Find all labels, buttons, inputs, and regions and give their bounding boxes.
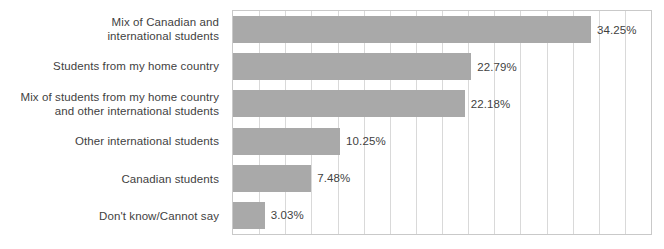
bar [233, 53, 471, 80]
bar [233, 202, 265, 229]
bar-row: 34.25% [233, 11, 651, 48]
bar-value-label: 34.25% [597, 24, 637, 36]
bar-value-label: 22.79% [477, 61, 517, 73]
category-label: Students from my home country [0, 48, 226, 86]
category-axis: Mix of Canadian and international studen… [0, 10, 226, 235]
horizontal-bar-chart: Mix of Canadian and international studen… [0, 0, 664, 249]
bars-layer: 34.25% 22.79% 22.18% 10.25% 7.48% 3.03% [233, 11, 651, 234]
bar-row: 22.79% [233, 48, 651, 85]
bar-value-label: 3.03% [271, 209, 304, 221]
bar [233, 90, 465, 117]
category-label: Mix of Canadian and international studen… [0, 10, 226, 48]
bar-value-label: 10.25% [346, 135, 386, 147]
bar-row: 10.25% [233, 123, 651, 160]
bar-row: 3.03% [233, 197, 651, 234]
plot-area: 34.25% 22.79% 22.18% 10.25% 7.48% 3.03% [232, 10, 652, 235]
bar-row: 7.48% [233, 160, 651, 197]
bar-row: 22.18% [233, 85, 651, 122]
bar-value-label: 7.48% [317, 172, 350, 184]
category-label: Canadian students [0, 160, 226, 198]
bar-value-label: 22.18% [471, 98, 511, 110]
bar [233, 16, 591, 43]
category-label: Mix of students from my home country and… [0, 85, 226, 123]
bar [233, 165, 311, 192]
bar [233, 128, 340, 155]
category-label: Other international students [0, 123, 226, 161]
category-label: Don't know/Cannot say [0, 198, 226, 236]
